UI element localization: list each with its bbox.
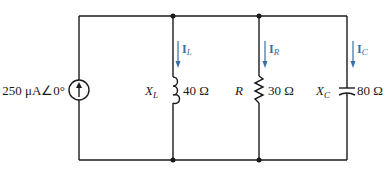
inductor-name: XL xyxy=(144,83,158,100)
current-arrow-resistor: IR xyxy=(263,41,280,68)
current-label-inductor: IL xyxy=(182,42,192,57)
arrow-down-icon xyxy=(263,61,268,68)
inductor-value: 40 Ω xyxy=(183,83,209,98)
current-label-resistor: IR xyxy=(269,42,280,57)
resistor-value: 30 Ω xyxy=(268,83,294,98)
resistor-zigzag-icon xyxy=(255,76,263,103)
resistor-name: R xyxy=(234,83,243,98)
capacitor-name: XC xyxy=(315,83,331,100)
current-arrow-capacitor: IC xyxy=(351,41,369,68)
junction-dot xyxy=(257,158,262,163)
arrow-down-icon xyxy=(351,61,356,68)
wires xyxy=(79,16,347,160)
current-arrow-inductor: IL xyxy=(176,41,192,68)
current-source: 250 μA∠0° xyxy=(2,80,89,100)
inductor-coil-icon xyxy=(173,77,180,104)
arrow-down-icon xyxy=(176,61,181,68)
inductor: XL 40 Ω xyxy=(144,77,209,104)
capacitor-value: 80 Ω xyxy=(357,83,383,98)
junction-dot xyxy=(171,14,176,19)
capacitor: XC 80 Ω xyxy=(315,83,383,100)
junction-dot xyxy=(257,14,262,19)
resistor: R 30 Ω xyxy=(234,76,294,103)
current-label-capacitor: IC xyxy=(357,42,369,57)
parallel-rlc-circuit: 250 μA∠0° XL 40 Ω R 30 Ω XC 80 Ω IL IR xyxy=(0,0,389,174)
junction-dot xyxy=(171,158,176,163)
source-label: 250 μA∠0° xyxy=(2,83,65,98)
current-source-arrowhead-icon xyxy=(76,82,82,88)
